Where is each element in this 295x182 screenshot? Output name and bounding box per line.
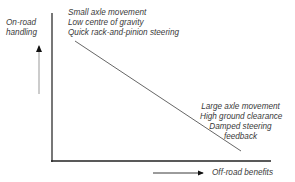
y-axis-label-line: handling: [6, 28, 37, 38]
off-road-features: Large axle movement High ground clearanc…: [200, 102, 281, 142]
feature-item: feedback: [200, 132, 281, 142]
feature-item: Low centre of gravity: [68, 18, 179, 28]
x-axis-label: Off-road benefits: [212, 168, 273, 178]
feature-item: Small axle movement: [68, 8, 179, 18]
feature-item: Quick rack-and-pinion steering: [68, 28, 179, 38]
feature-item: Damped steering: [200, 122, 281, 132]
y-axis-label-line: On-road: [6, 18, 37, 28]
on-road-features: Small axle movement Low centre of gravit…: [68, 8, 179, 38]
feature-item: Large axle movement: [200, 102, 281, 112]
y-axis-label: On-road handling: [6, 18, 37, 38]
feature-item: High ground clearance: [200, 112, 281, 122]
